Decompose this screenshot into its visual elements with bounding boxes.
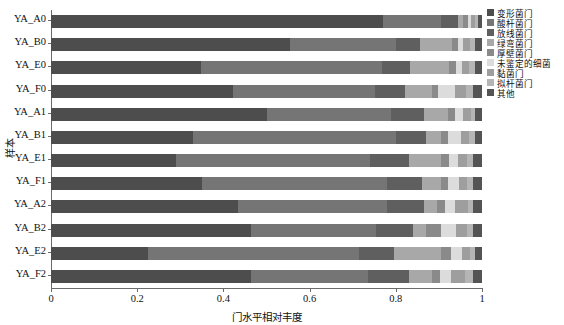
bar-segment[interactable]: [51, 61, 201, 74]
bar-segment[interactable]: [51, 154, 176, 167]
stacked-bar[interactable]: [51, 270, 482, 283]
bar-segment[interactable]: [432, 270, 440, 283]
bar-segment[interactable]: [51, 200, 238, 213]
bar-segment[interactable]: [51, 131, 193, 144]
bar-segment[interactable]: [202, 177, 387, 190]
bar-segment[interactable]: [51, 38, 290, 51]
stacked-bar[interactable]: [51, 15, 482, 28]
bar-segment[interactable]: [473, 154, 482, 167]
bar-row[interactable]: YA_A0: [51, 10, 482, 33]
bar-row[interactable]: YA_F2: [51, 265, 482, 288]
bar-segment[interactable]: [441, 224, 456, 237]
bar-segment[interactable]: [51, 270, 251, 283]
bar-segment[interactable]: [475, 108, 481, 121]
bar-segment[interactable]: [387, 177, 421, 190]
bar-row[interactable]: YA_F0: [51, 80, 482, 103]
stacked-bar[interactable]: [51, 61, 482, 74]
bar-row[interactable]: YA_B0: [51, 33, 482, 56]
bar-segment[interactable]: [441, 177, 448, 190]
bar-segment[interactable]: [420, 38, 452, 51]
bar-segment[interactable]: [455, 200, 468, 213]
bar-segment[interactable]: [475, 38, 482, 51]
bar-segment[interactable]: [290, 38, 396, 51]
stacked-bar[interactable]: [51, 85, 482, 98]
stacked-bar[interactable]: [51, 247, 482, 260]
bar-segment[interactable]: [440, 270, 450, 283]
legend-item[interactable]: 其他: [487, 88, 551, 97]
bar-segment[interactable]: [449, 61, 456, 74]
bar-segment[interactable]: [375, 85, 405, 98]
bar-segment[interactable]: [267, 108, 392, 121]
bar-segment[interactable]: [475, 61, 482, 74]
bar-segment[interactable]: [370, 154, 409, 167]
bar-row[interactable]: YA_B2: [51, 219, 482, 242]
bar-row[interactable]: YA_A1: [51, 103, 482, 126]
bar-segment[interactable]: [193, 131, 396, 144]
bar-row[interactable]: YA_F1: [51, 172, 482, 195]
bar-segment[interactable]: [51, 224, 251, 237]
bar-segment[interactable]: [396, 38, 420, 51]
bar-segment[interactable]: [473, 85, 482, 98]
bar-segment[interactable]: [473, 200, 482, 213]
bar-segment[interactable]: [426, 224, 441, 237]
bar-row[interactable]: YA_E1: [51, 149, 482, 172]
bar-segment[interactable]: [458, 154, 467, 167]
bar-segment[interactable]: [455, 108, 463, 121]
bar-segment[interactable]: [475, 131, 481, 144]
bar-segment[interactable]: [462, 247, 471, 260]
bar-row[interactable]: YA_E2: [51, 242, 482, 265]
bar-segment[interactable]: [441, 15, 458, 28]
bar-segment[interactable]: [413, 224, 426, 237]
bar-segment[interactable]: [451, 247, 462, 260]
bar-segment[interactable]: [201, 61, 382, 74]
bar-segment[interactable]: [51, 15, 383, 28]
bar-segment[interactable]: [409, 270, 433, 283]
bar-segment[interactable]: [475, 247, 481, 260]
bar-segment[interactable]: [51, 108, 267, 121]
bar-segment[interactable]: [251, 224, 376, 237]
bar-segment[interactable]: [405, 85, 432, 98]
bar-segment[interactable]: [437, 200, 446, 213]
bar-segment[interactable]: [238, 200, 387, 213]
bar-segment[interactable]: [473, 224, 482, 237]
bar-segment[interactable]: [251, 270, 367, 283]
stacked-bar[interactable]: [51, 200, 482, 213]
bar-segment[interactable]: [426, 131, 441, 144]
bar-segment[interactable]: [422, 177, 441, 190]
bar-segment[interactable]: [451, 270, 466, 283]
bar-segment[interactable]: [478, 15, 482, 28]
bar-segment[interactable]: [391, 108, 423, 121]
bar-segment[interactable]: [448, 131, 461, 144]
bar-segment[interactable]: [449, 154, 458, 167]
bar-segment[interactable]: [359, 247, 393, 260]
bar-segment[interactable]: [465, 270, 473, 283]
bar-segment[interactable]: [455, 85, 465, 98]
bar-segment[interactable]: [441, 131, 448, 144]
bar-segment[interactable]: [438, 85, 455, 98]
bar-segment[interactable]: [51, 85, 233, 98]
bar-segment[interactable]: [410, 61, 449, 74]
stacked-bar[interactable]: [51, 108, 482, 121]
bar-segment[interactable]: [409, 154, 441, 167]
stacked-bar[interactable]: [51, 38, 482, 51]
bar-segment[interactable]: [448, 108, 456, 121]
bar-segment[interactable]: [233, 85, 375, 98]
stacked-bar[interactable]: [51, 131, 482, 144]
bar-segment[interactable]: [448, 177, 459, 190]
stacked-bar[interactable]: [51, 154, 482, 167]
bar-segment[interactable]: [51, 177, 202, 190]
bar-segment[interactable]: [424, 200, 437, 213]
bar-segment[interactable]: [441, 154, 449, 167]
bar-segment[interactable]: [383, 15, 441, 28]
stacked-bar[interactable]: [51, 224, 482, 237]
bar-segment[interactable]: [456, 224, 467, 237]
bar-segment[interactable]: [176, 154, 370, 167]
bar-segment[interactable]: [382, 61, 410, 74]
bar-segment[interactable]: [376, 224, 413, 237]
bar-segment[interactable]: [463, 38, 470, 51]
bar-row[interactable]: YA_B1: [51, 126, 482, 149]
bar-segment[interactable]: [459, 177, 468, 190]
bar-segment[interactable]: [387, 200, 424, 213]
bar-segment[interactable]: [473, 270, 482, 283]
bar-row[interactable]: YA_E0: [51, 56, 482, 79]
